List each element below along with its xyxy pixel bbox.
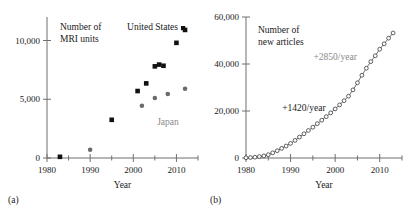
data-point-us <box>183 28 188 33</box>
annotation-early-rate: +1420/year <box>282 103 326 113</box>
data-point-us <box>58 155 63 160</box>
data-point-article <box>257 155 261 159</box>
data-point-article <box>319 118 323 122</box>
data-point-article <box>306 129 310 133</box>
y-tick-label: 10,000 <box>15 36 40 46</box>
data-point-article <box>391 31 395 35</box>
data-point-japan <box>88 147 93 152</box>
panel-a-title-line2: MRI units <box>60 34 99 44</box>
data-point-us <box>157 62 162 67</box>
panel-b-letter: (b) <box>210 195 221 206</box>
x-tick-label: 1980 <box>237 165 256 175</box>
data-point-article <box>284 144 288 148</box>
data-point-article <box>377 47 381 51</box>
data-point-article <box>248 156 252 160</box>
data-point-article <box>355 81 359 85</box>
data-point-us <box>174 41 179 46</box>
data-point-japan <box>166 92 171 97</box>
panel-a: 05,00010,0001980199020002010Number ofMRI… <box>0 0 206 218</box>
data-point-article <box>275 149 279 153</box>
y-tick-label: 60,000 <box>214 12 239 22</box>
data-point-article <box>373 54 377 58</box>
data-point-article <box>346 94 350 98</box>
panel-b-xlabel: Year <box>315 180 333 190</box>
figure-container: 05,00010,0001980199020002010Number ofMRI… <box>0 0 411 218</box>
data-point-article <box>342 99 346 103</box>
data-point-us <box>153 64 158 69</box>
legend-japan: Japan <box>157 117 179 127</box>
data-point-us <box>144 81 149 86</box>
annotation-late-rate: +2850/year <box>313 52 357 62</box>
data-point-article <box>351 88 355 92</box>
panel-b: 020,00040,00060,0001980199020002010Numbe… <box>206 0 411 218</box>
panel-a-xlabel: Year <box>114 180 132 190</box>
data-point-us <box>135 89 140 94</box>
x-tick-label: 2000 <box>326 165 345 175</box>
panel-b-plot: 020,00040,00060,0001980199020002010Numbe… <box>206 0 411 218</box>
data-point-japan <box>183 86 188 91</box>
data-point-japan <box>153 96 158 101</box>
data-point-article <box>359 73 363 77</box>
data-point-article <box>293 138 297 142</box>
y-tick-label: 0 <box>234 153 239 163</box>
data-point-us <box>109 118 114 123</box>
data-point-article <box>279 146 283 150</box>
data-point-article <box>368 60 372 64</box>
data-point-article <box>324 115 328 119</box>
panel-b-title-line2: new articles <box>258 37 304 47</box>
x-tick-label: 1980 <box>38 165 57 175</box>
x-tick-label: 2000 <box>124 165 143 175</box>
data-point-article <box>297 135 301 139</box>
legend-united-states: United States <box>127 22 178 32</box>
data-point-article <box>288 142 292 146</box>
y-tick-label: 20,000 <box>214 106 239 116</box>
data-point-article <box>364 66 368 70</box>
data-point-article <box>270 151 274 155</box>
data-point-article <box>315 122 319 126</box>
panel-a-letter: (a) <box>8 195 19 206</box>
x-tick-label: 1990 <box>81 165 100 175</box>
data-point-japan <box>140 103 145 108</box>
x-tick-label: 1990 <box>281 165 300 175</box>
data-point-article <box>386 36 390 40</box>
data-point-article <box>261 154 265 158</box>
data-point-article <box>382 42 386 46</box>
data-point-article <box>333 107 337 111</box>
data-point-article <box>337 103 341 107</box>
y-tick-label: 0 <box>36 153 41 163</box>
panel-b-title-line1: Number of <box>258 25 300 35</box>
x-tick-label: 2010 <box>370 165 389 175</box>
data-point-article <box>266 153 270 157</box>
x-tick-label: 2010 <box>167 165 186 175</box>
data-point-article <box>310 125 314 129</box>
y-tick-label: 5,000 <box>20 94 41 104</box>
data-point-article <box>302 132 306 136</box>
panel-a-plot: 05,00010,0001980199020002010Number ofMRI… <box>0 0 206 218</box>
data-point-us <box>161 63 166 68</box>
data-point-article <box>328 111 332 115</box>
y-tick-label: 40,000 <box>214 59 239 69</box>
panel-a-title-line1: Number of <box>60 22 102 32</box>
data-point-article <box>253 155 257 159</box>
data-point-article <box>244 156 248 160</box>
